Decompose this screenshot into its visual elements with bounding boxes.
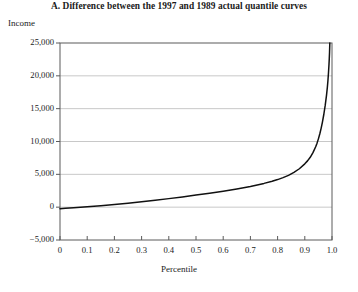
x-tick-label: 1.0	[312, 245, 352, 255]
y-tick-label: 5,000	[35, 168, 54, 178]
y-tick-label: 0	[50, 201, 54, 211]
y-tick-label: 15,000	[30, 103, 54, 113]
data-series-line	[60, 43, 330, 209]
x-axis-title: Percentile	[0, 264, 358, 274]
chart-figure: A. Difference between the 1997 and 1989 …	[0, 0, 358, 292]
gridlines	[60, 76, 332, 207]
y-tick-label: 10,000	[30, 136, 54, 146]
y-tick-label: 25,000	[30, 37, 54, 47]
y-tick-label: 20,000	[30, 70, 54, 80]
y-tick-label: −5,000	[30, 234, 54, 244]
